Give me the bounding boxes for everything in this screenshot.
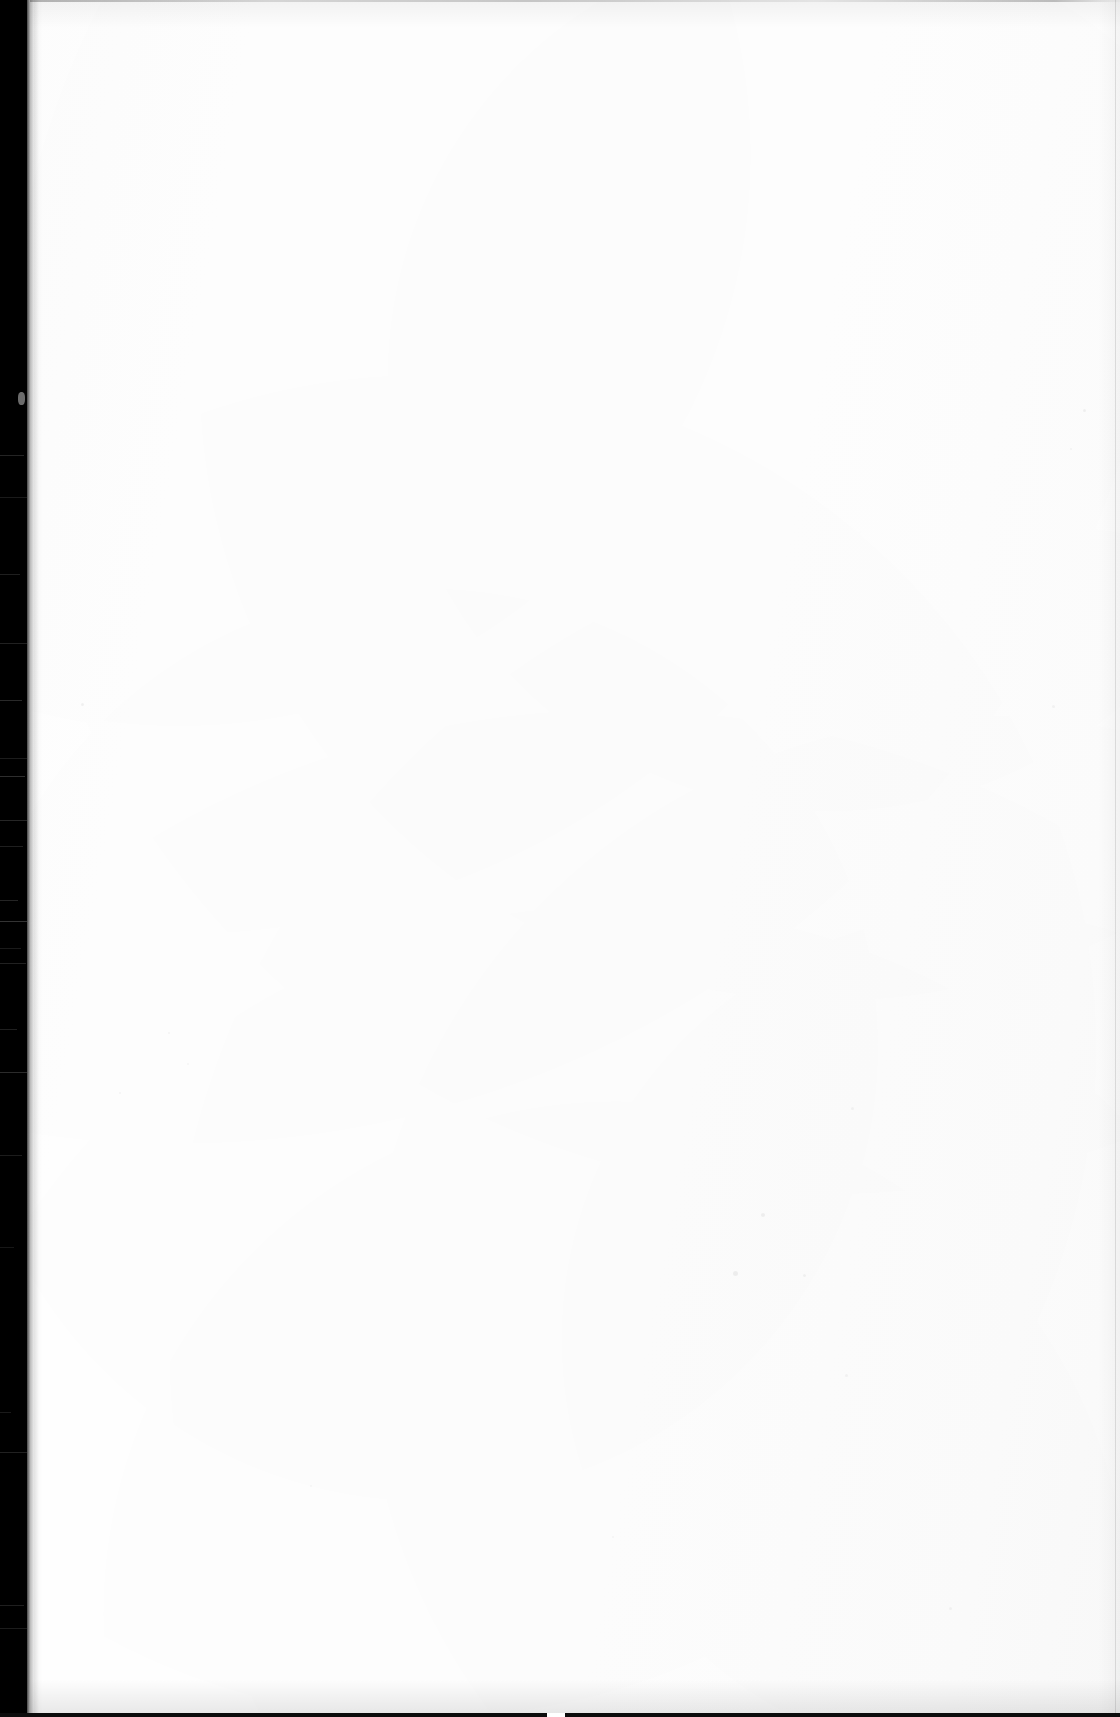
dust-speck (119, 1092, 121, 1094)
gutter-striation (0, 1247, 14, 1248)
dust-speck (949, 1607, 952, 1610)
scanner-gutter-band (0, 0, 27, 1717)
gutter-striation (0, 820, 27, 821)
gutter-striation (0, 1628, 27, 1629)
gutter-striation (0, 1412, 11, 1413)
gutter-striation (0, 1605, 24, 1606)
scanned-page (0, 0, 1120, 1717)
gutter-striation (0, 1029, 17, 1030)
dust-speck (81, 703, 84, 706)
gutter-striation (0, 963, 26, 964)
gutter-sheen (34, 0, 43, 1717)
gutter-striation (0, 776, 25, 777)
dust-speck (168, 1032, 170, 1034)
right-edge-rule (1115, 0, 1116, 1717)
gutter-striation (0, 1452, 27, 1453)
dust-speck (310, 1485, 312, 1487)
dust-speck (851, 1107, 854, 1110)
right-edge-haze (1098, 0, 1120, 1717)
page-body-text (96, 120, 1056, 1600)
gutter-striation (0, 574, 20, 575)
dust-speck (1070, 448, 1072, 450)
gutter-striation (0, 846, 23, 847)
gutter-striation (0, 1072, 27, 1073)
bottom-edge-break (547, 1713, 565, 1717)
dust-speck (1052, 705, 1055, 708)
gutter-nick-artifact (18, 392, 25, 405)
gutter-striation (0, 455, 24, 456)
gutter-striation (0, 1155, 22, 1156)
dust-speck (612, 1536, 614, 1538)
gutter-striation (0, 921, 27, 922)
gutter-striation (0, 758, 27, 759)
bottom-edge-haze (30, 1679, 1120, 1713)
gutter-striation (0, 700, 22, 701)
dust-speck (803, 1274, 806, 1277)
gutter-striation (0, 497, 27, 498)
top-edge-haze (30, 2, 1120, 28)
dust-speck (187, 1063, 189, 1065)
dust-speck (761, 1213, 765, 1217)
dust-speck (1083, 409, 1086, 412)
gutter-striation (0, 948, 21, 949)
gutter-striation (0, 643, 27, 644)
dust-speck (845, 1374, 848, 1377)
gutter-striation (0, 900, 18, 901)
dust-speck (733, 1271, 738, 1276)
